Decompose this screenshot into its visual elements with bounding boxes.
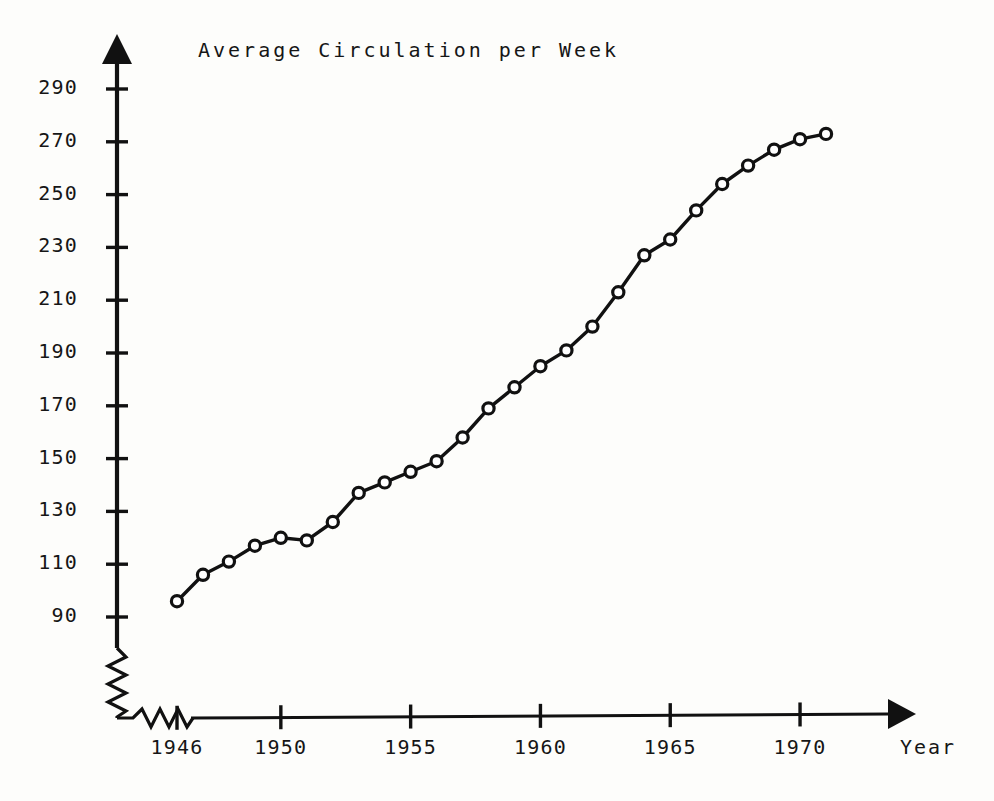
x-axis-tick-label: 1960: [500, 735, 580, 759]
data-point-marker: [769, 144, 780, 155]
data-series-group: 1946: 961947: 1061948: 1111949: 1171950:…: [171, 128, 831, 607]
data-point: 1959: 177: [509, 382, 520, 393]
data-point-marker: [483, 403, 494, 414]
data-point-marker: [379, 477, 390, 488]
data-point: 1965: 233: [665, 234, 676, 245]
data-point: 1967: 254: [717, 178, 728, 189]
data-point: 1962: 200: [587, 321, 598, 332]
data-point-marker: [249, 540, 260, 551]
data-point-marker: [613, 287, 624, 298]
data-point: 1961: 191: [561, 345, 572, 356]
data-point: 1953: 137: [353, 487, 364, 498]
data-point: 1952: 126: [327, 516, 338, 527]
data-point-marker: [743, 160, 754, 171]
data-point-marker: [405, 466, 416, 477]
data-point: 1957: 158: [457, 432, 468, 443]
data-point-marker: [665, 234, 676, 245]
y-axis-tick-label: 190: [16, 339, 78, 363]
data-point-marker: [794, 134, 805, 145]
y-axis-tick-label: 170: [16, 392, 78, 416]
data-point: 1951: 119: [301, 535, 312, 546]
data-point-marker: [535, 361, 546, 372]
y-axis-tick-label: 250: [16, 181, 78, 205]
x-axis-tick-label: 1950: [241, 735, 321, 759]
data-point-marker: [820, 128, 831, 139]
data-point: 1955: 145: [405, 466, 416, 477]
data-point: 1970: 271: [794, 134, 805, 145]
data-point: 1969: 267: [769, 144, 780, 155]
y-axis-tick-label: 230: [16, 233, 78, 257]
data-point: 1963: 213: [613, 287, 624, 298]
data-point-marker: [717, 178, 728, 189]
y-axis-tick-label: 130: [16, 497, 78, 521]
y-axis-tick-label: 270: [16, 128, 78, 152]
data-point-marker: [171, 596, 182, 607]
y-axis-tick-label: 150: [16, 445, 78, 469]
y-axis-tick-label: 210: [16, 286, 78, 310]
data-point-marker: [353, 487, 364, 498]
x-axis-arrowhead: [888, 699, 916, 729]
x-axis-tick-label: 1946: [137, 735, 217, 759]
data-point-marker: [197, 569, 208, 580]
x-axis-title: Year: [900, 735, 956, 759]
data-point: 1948: 111: [223, 556, 234, 567]
y-axis-arrowhead: [102, 34, 132, 64]
data-point: 1968: 261: [743, 160, 754, 171]
data-point-marker: [431, 456, 442, 467]
data-point-marker: [691, 205, 702, 216]
chart-figure: Average Circulation per Week 1946: 96194…: [0, 0, 994, 801]
x-axis-tick-label: 1955: [371, 735, 451, 759]
data-point-marker: [223, 556, 234, 567]
data-point: 1964: 227: [639, 250, 650, 261]
x-axis-tick-label: 1965: [630, 735, 710, 759]
data-point: 1950: 120: [275, 532, 286, 543]
data-point-marker: [301, 535, 312, 546]
chart-plot-area: 1946: 961947: 1061948: 1111949: 1171950:…: [0, 0, 994, 801]
data-point: 1949: 117: [249, 540, 260, 551]
data-point: 1956: 149: [431, 456, 442, 467]
data-point-marker: [561, 345, 572, 356]
data-point: 1966: 244: [691, 205, 702, 216]
x-axis-tick-label: 1970: [760, 735, 840, 759]
data-point-marker: [327, 516, 338, 527]
data-point-marker: [587, 321, 598, 332]
data-point: 1954: 141: [379, 477, 390, 488]
data-point: 1946: 96: [171, 596, 182, 607]
y-axis-tick-label: 90: [16, 603, 78, 627]
x-axis-break-zigzag: [117, 709, 193, 727]
y-axis-tick-label: 110: [16, 550, 78, 574]
data-point-marker: [275, 532, 286, 543]
data-point: 1947: 106: [197, 569, 208, 580]
data-line: [177, 134, 826, 601]
data-point-marker: [639, 250, 650, 261]
data-point: 1960: 185: [535, 361, 546, 372]
data-point: 1958: 169: [483, 403, 494, 414]
y-axis-break-zigzag: [108, 648, 126, 718]
y-axis-tick-label: 290: [16, 75, 78, 99]
data-point-marker: [457, 432, 468, 443]
data-point-marker: [509, 382, 520, 393]
ticks-group: [106, 89, 800, 730]
data-point: 1971: 273: [820, 128, 831, 139]
